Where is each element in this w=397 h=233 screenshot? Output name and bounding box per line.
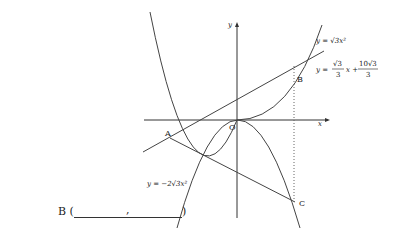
answer-close: ) (182, 205, 186, 218)
line-eq-lhs: y = (315, 66, 328, 74)
segment-AC (170, 138, 295, 202)
answer-blank[interactable]: , (74, 204, 182, 218)
y-axis-label: y (227, 21, 233, 29)
line-eq-frac2-den: 3 (366, 71, 370, 79)
line-equation-label: y = √3 3 x + 10√3 3 (315, 60, 378, 79)
line-eq-frac1-den: 3 (336, 71, 340, 79)
y-axis-arrow (235, 22, 239, 27)
upper-parabola-right (237, 25, 322, 120)
line-eq-frac1-num: √3 (333, 60, 342, 68)
answer-separator: , (126, 203, 130, 216)
answer-field: B (,) (58, 204, 186, 218)
lower-parabola (177, 120, 300, 228)
origin-label: O (229, 123, 236, 132)
upper-parabola (150, 12, 237, 156)
graph: y x O A B C y = √3x² y = √3 3 x + 10√3 3… (0, 0, 397, 233)
x-axis-label: x (318, 120, 322, 128)
lower-parabola-label: y = −2√3x² (146, 180, 187, 188)
line-eq-frac2-num: 10√3 (359, 60, 377, 68)
answer-label: B ( (58, 205, 74, 218)
point-B-label: B (297, 75, 303, 84)
upper-parabola-label: y = √3x² (315, 37, 346, 45)
point-A-label: A (164, 129, 171, 138)
point-C-label: C (299, 199, 305, 208)
x-axis-arrow (325, 118, 330, 122)
line-eq-mid: x + (346, 66, 358, 74)
